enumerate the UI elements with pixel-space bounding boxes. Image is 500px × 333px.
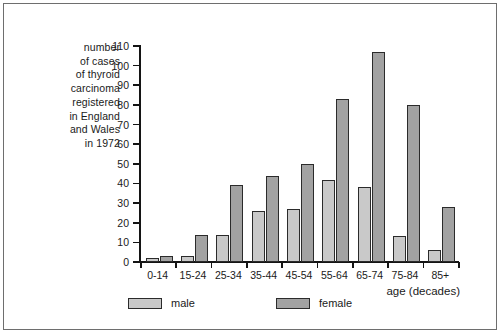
bar-male-25-34 [216, 235, 229, 262]
x-axis-tick-label: 15-24 [175, 270, 210, 281]
bar-male-55-64 [322, 180, 335, 262]
bar-female-55-64 [336, 99, 349, 262]
y-axis-tick [133, 202, 140, 204]
x-axis-tick [281, 262, 283, 268]
x-axis-tick-label: 75-84 [387, 270, 422, 281]
bar-female-65-74 [372, 52, 385, 262]
x-axis-tick [211, 262, 213, 268]
x-axis-tick-label: 65-74 [352, 270, 387, 281]
legend-swatch-male [128, 298, 162, 309]
x-axis-tick-label: 25-34 [211, 270, 246, 281]
y-axis-tick-label: 10 [101, 237, 129, 248]
x-axis-tick-label: 0-14 [140, 270, 175, 281]
plot-area [140, 46, 458, 262]
bar-female-15-24 [195, 235, 208, 262]
x-axis-tick [175, 262, 177, 268]
bar-female-85+ [442, 207, 455, 262]
y-axis-tick [133, 104, 140, 106]
legend-label-male: male [171, 298, 195, 309]
x-axis-tick [317, 262, 319, 268]
y-axis-tick [133, 124, 140, 126]
bar-female-0-14 [160, 256, 173, 262]
x-axis-tick-label: 45-54 [281, 270, 316, 281]
y-axis-tick [133, 143, 140, 145]
x-axis-tick [387, 262, 389, 268]
x-axis-tick-label: 35-44 [246, 270, 281, 281]
chart-figure: number of cases of thyroid carcinoma reg… [0, 0, 500, 333]
y-axis-tick [133, 84, 140, 86]
bar-male-85+ [428, 250, 441, 262]
bar-female-75-84 [407, 105, 420, 262]
bar-male-45-54 [287, 209, 300, 262]
x-axis-tick [423, 262, 425, 268]
legend-item-female: female [276, 298, 352, 309]
x-axis-tick-label: 85+ [423, 270, 458, 281]
bar-male-35-44 [252, 211, 265, 262]
x-axis-tick [140, 262, 142, 268]
x-axis-tick [246, 262, 248, 268]
y-axis-tick [133, 222, 140, 224]
bar-male-65-74 [358, 187, 371, 262]
bar-female-45-54 [301, 164, 314, 262]
y-axis-title: number of cases of thyroid carcinoma reg… [34, 41, 120, 151]
x-axis-tick [458, 262, 460, 268]
bar-male-75-84 [393, 236, 406, 262]
y-axis-tick-label: 30 [101, 198, 129, 209]
y-axis-tick-label: 60 [101, 139, 129, 150]
y-axis-tick [133, 242, 140, 244]
y-axis-tick-label: 0 [101, 257, 129, 268]
legend-item-male: male [128, 298, 195, 309]
y-axis-tick-label: 110 [101, 41, 129, 52]
y-axis-tick-label: 50 [101, 159, 129, 170]
y-axis-tick [133, 45, 140, 47]
y-axis-tick-label: 70 [101, 120, 129, 131]
legend-label-female: female [319, 298, 352, 309]
y-axis-tick-label: 100 [101, 61, 129, 72]
bar-female-35-44 [266, 176, 279, 262]
x-axis-title: age (decades) [330, 285, 460, 297]
x-axis-tick-label: 55-64 [317, 270, 352, 281]
y-axis-tick-label: 80 [101, 100, 129, 111]
y-axis-tick [133, 183, 140, 185]
bar-male-15-24 [181, 256, 194, 262]
y-axis-tick [133, 163, 140, 165]
x-axis-tick [352, 262, 354, 268]
y-axis-tick [133, 261, 140, 263]
bar-male-0-14 [146, 258, 159, 262]
y-axis-tick-label: 90 [101, 80, 129, 91]
bar-female-25-34 [230, 185, 243, 262]
y-axis-tick [133, 65, 140, 67]
legend-swatch-female [276, 298, 310, 309]
y-axis-tick-label: 40 [101, 178, 129, 189]
y-axis-tick-label: 20 [101, 218, 129, 229]
